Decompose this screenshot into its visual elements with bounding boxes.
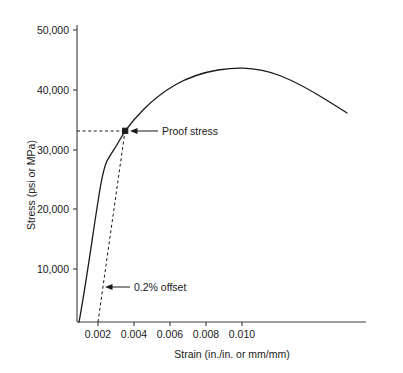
- y-tick-labels: 50,000 40,000 30,000 20,000 10,000: [37, 24, 69, 275]
- x-tick-label-0010: 0.010: [229, 328, 255, 340]
- y-tick-label-40000: 40,000: [37, 84, 69, 96]
- offset-annotation: 0.2% offset: [105, 281, 186, 293]
- stress-strain-figure: 50,000 40,000 30,000 20,000 10,000 0.002…: [0, 0, 403, 373]
- stress-strain-curve: [79, 68, 347, 322]
- chart-svg: 50,000 40,000 30,000 20,000 10,000 0.002…: [0, 0, 403, 373]
- offset-arrow-icon: [105, 284, 113, 290]
- y-tick-label-50000: 50,000: [37, 24, 69, 36]
- x-axis-title: Strain (in./in. or mm/mm): [174, 348, 290, 360]
- x-tick-label-0004: 0.004: [121, 328, 147, 340]
- proof-stress-label: Proof stress: [162, 125, 218, 137]
- offset-line: [98, 131, 125, 322]
- x-tick-labels: 0.002 0.004 0.006 0.008 0.010: [85, 328, 255, 340]
- proof-stress-arrow-icon: [130, 128, 138, 134]
- proof-stress-annotation: Proof stress: [130, 125, 218, 137]
- offset-label: 0.2% offset: [134, 281, 186, 293]
- x-tick-label-0002: 0.002: [85, 328, 111, 340]
- x-tick-label-0008: 0.008: [193, 328, 219, 340]
- proof-stress-point-marker: [123, 128, 128, 133]
- x-tick-label-0006: 0.006: [157, 328, 183, 340]
- y-tick-label-20000: 20,000: [37, 203, 69, 215]
- y-axis-title: Stress (psi or MPa): [25, 140, 37, 230]
- y-tick-label-10000: 10,000: [37, 263, 69, 275]
- y-tick-label-30000: 30,000: [37, 144, 69, 156]
